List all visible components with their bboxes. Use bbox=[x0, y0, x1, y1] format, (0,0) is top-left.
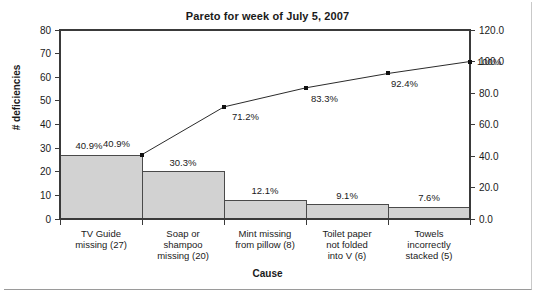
cumulative-percent-label-4: 92.4% bbox=[391, 78, 418, 89]
y-tick-label-left: 0 bbox=[45, 214, 51, 225]
y-tick-label-left: 80 bbox=[40, 25, 52, 36]
x-category-label-line: TV Guide bbox=[60, 228, 142, 239]
x-axis-label: Cause bbox=[0, 268, 535, 279]
y-tick-label-right: 40.0 bbox=[479, 151, 499, 162]
cumulative-marker-1 bbox=[140, 153, 144, 157]
x-category-label-line: Toilet paper bbox=[306, 228, 388, 239]
cumulative-percent-label-5: 100% bbox=[477, 56, 502, 67]
x-category-label-line: stacked (5) bbox=[388, 250, 470, 261]
x-category-label-line: Towels bbox=[388, 228, 470, 239]
y-tick-label-right: 0.0 bbox=[479, 214, 493, 225]
y-tick-label-left: 30 bbox=[40, 143, 52, 154]
x-category-label-2: Soap orshampoomissing (20) bbox=[142, 228, 224, 261]
bar-5 bbox=[388, 207, 470, 219]
bar-percent-label-5: 7.6% bbox=[418, 192, 440, 203]
y-tick-label-left: 40 bbox=[40, 119, 52, 130]
x-category-label-line: shampoo bbox=[142, 239, 224, 250]
y-tick-label-left: 20 bbox=[40, 166, 52, 177]
bar-percent-label-4: 9.1% bbox=[336, 190, 358, 201]
x-category-label-4: Toilet papernot foldedinto V (6) bbox=[306, 228, 388, 261]
x-category-label-5: Towelsincorrectlystacked (5) bbox=[388, 228, 470, 261]
cumulative-percent-label-3: 83.3% bbox=[311, 93, 338, 104]
y-tick-label-left: 70 bbox=[40, 48, 52, 59]
x-category-label-line: missing (20) bbox=[142, 250, 224, 261]
cumulative-marker-2 bbox=[222, 105, 226, 109]
x-category-label-line: Soap or bbox=[142, 228, 224, 239]
bar-percent-label-3: 12.1% bbox=[252, 185, 279, 196]
cumulative-line bbox=[142, 62, 470, 155]
bar-3 bbox=[224, 200, 306, 219]
bar-1 bbox=[60, 155, 142, 219]
x-category-label-line: missing (27) bbox=[60, 239, 142, 250]
bar-percent-label-2: 30.3% bbox=[170, 157, 197, 168]
x-category-label-line: Mint missing bbox=[224, 228, 306, 239]
x-category-label-3: Mint missingfrom pillow (8) bbox=[224, 228, 306, 250]
cumulative-percent-label-1: 40.9% bbox=[103, 138, 130, 149]
cumulative-marker-3 bbox=[304, 86, 308, 90]
y-tick-label-right: 60.0 bbox=[479, 119, 499, 130]
pareto-chart-figure: Pareto for week of July 5, 2007 # defici… bbox=[0, 0, 535, 294]
x-category-label-line: into V (6) bbox=[306, 250, 388, 261]
bar-4 bbox=[306, 205, 388, 219]
x-category-label-line: from pillow (8) bbox=[224, 239, 306, 250]
cumulative-percent-label-2: 71.2% bbox=[232, 111, 259, 122]
x-category-label-line: not folded bbox=[306, 239, 388, 250]
cumulative-marker-5 bbox=[468, 60, 472, 64]
y-tick-label-left: 10 bbox=[40, 190, 52, 201]
y-tick-label-right: 20.0 bbox=[479, 182, 499, 193]
y-tick-label-left: 50 bbox=[40, 95, 52, 106]
bar-percent-label-1: 40.9% bbox=[76, 140, 103, 151]
cumulative-marker-4 bbox=[386, 71, 390, 75]
y-tick-label-right: 80.0 bbox=[479, 88, 499, 99]
x-category-label-1: TV Guidemissing (27) bbox=[60, 228, 142, 250]
x-category-label-line: incorrectly bbox=[388, 239, 470, 250]
y-tick-label-left: 60 bbox=[40, 72, 52, 83]
y-tick-label-right: 120.0 bbox=[479, 25, 504, 36]
bar-2 bbox=[142, 172, 224, 219]
